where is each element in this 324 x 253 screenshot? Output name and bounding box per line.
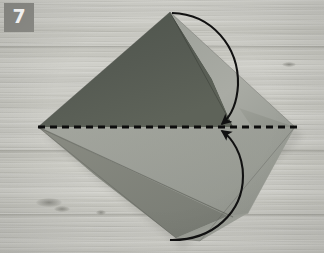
origami-step-photo: 7 bbox=[0, 0, 324, 253]
photo-vignette bbox=[0, 0, 324, 253]
